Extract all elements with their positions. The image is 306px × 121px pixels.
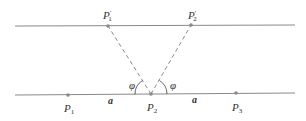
diagram-svg: P′1 P′2 P1 P2 P3 φ φ a a [0,0,306,121]
diagram-canvas: P′1 P′2 P1 P2 P3 φ φ a a [0,0,306,121]
point-p3 [234,91,238,95]
angle-arc-left [135,81,143,95]
label-p2prime: P′2 [187,9,197,23]
label-p2: P2 [146,101,158,115]
distance-label-left: a [108,95,113,106]
bottom-line [15,93,295,95]
label-p1prime: P′1 [102,9,112,23]
point-p2prime [189,23,193,27]
distance-label-right: a [192,94,197,105]
angle-label-left: φ [129,79,135,91]
top-line [15,25,295,26]
point-p2 [149,92,153,96]
angle-arc-right [160,81,168,95]
point-p1prime [106,24,110,28]
point-p1 [66,93,70,97]
label-p1: P1 [63,102,75,116]
label-p3: P3 [231,101,243,115]
angle-label-right: φ [170,79,176,91]
